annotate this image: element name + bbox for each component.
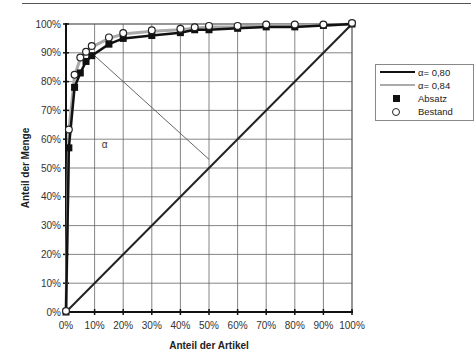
legend-label: Bestand bbox=[418, 105, 453, 118]
x-tick-label: 20% bbox=[113, 320, 133, 331]
y-tick-label: 0% bbox=[47, 307, 62, 318]
alpha-annotation: α bbox=[102, 139, 108, 150]
x-tick-label: 100% bbox=[339, 320, 365, 331]
x-tick-label: 40% bbox=[170, 320, 190, 331]
y-tick-label: 50% bbox=[41, 163, 61, 174]
absatz-marker bbox=[65, 144, 72, 151]
x-tick-label: 50% bbox=[199, 320, 219, 331]
y-tick-label: 90% bbox=[41, 47, 61, 58]
y-tick-label: 70% bbox=[41, 105, 61, 116]
bestand-marker bbox=[349, 20, 356, 27]
bestand-marker bbox=[206, 22, 213, 29]
x-tick-label: 90% bbox=[313, 320, 333, 331]
legend-label: α= 0,80 bbox=[418, 66, 450, 79]
legend-item-bestand: Bestand bbox=[376, 105, 473, 118]
chart-legend: α= 0,80 α= 0,84 Absatz Bestand bbox=[375, 64, 474, 121]
y-tick-label: 100% bbox=[35, 19, 61, 30]
x-tick-label: 70% bbox=[256, 320, 276, 331]
x-tick-label: 0% bbox=[59, 320, 74, 331]
absatz-marker bbox=[71, 84, 78, 91]
x-tick-label: 30% bbox=[142, 320, 162, 331]
bestand-marker bbox=[263, 21, 270, 28]
legend-item-absatz: Absatz bbox=[376, 92, 473, 105]
bestand-marker bbox=[77, 54, 84, 61]
x-tick-label: 80% bbox=[285, 320, 305, 331]
bestand-marker bbox=[106, 34, 113, 41]
grey-line-swatch-icon bbox=[380, 84, 415, 86]
y-tick-label: 10% bbox=[41, 278, 61, 289]
y-tick-label: 60% bbox=[41, 134, 61, 145]
bestand-marker bbox=[88, 43, 95, 50]
bestand-marker bbox=[177, 25, 184, 32]
y-tick-label: 80% bbox=[41, 76, 61, 87]
bestand-marker bbox=[191, 24, 198, 31]
y-axis-title: Anteil der Menge bbox=[20, 127, 31, 208]
legend-item-alpha-084: α= 0,84 bbox=[376, 79, 473, 92]
bestand-marker bbox=[291, 21, 298, 28]
y-tick-label: 40% bbox=[41, 191, 61, 202]
y-tick-label: 20% bbox=[41, 249, 61, 260]
bestand-marker bbox=[320, 21, 327, 28]
y-tick-label: 30% bbox=[41, 220, 61, 231]
bestand-marker bbox=[83, 48, 90, 55]
legend-label: α= 0,84 bbox=[418, 79, 450, 92]
solid-line-swatch-icon bbox=[380, 71, 415, 73]
bestand-marker bbox=[71, 71, 78, 78]
bestand-marker bbox=[120, 30, 127, 37]
x-axis-title: Anteil der Artikel bbox=[169, 340, 249, 351]
filled-square-icon bbox=[393, 95, 400, 102]
absatz-marker bbox=[105, 41, 112, 48]
bestand-marker bbox=[63, 308, 70, 315]
x-tick-label: 60% bbox=[228, 320, 248, 331]
bestand-marker bbox=[65, 126, 72, 133]
bestand-marker bbox=[148, 27, 155, 34]
x-tick-label: 10% bbox=[85, 320, 105, 331]
legend-item-alpha-080: α= 0,80 bbox=[376, 66, 473, 79]
bestand-marker bbox=[234, 22, 241, 29]
open-circle-icon bbox=[392, 108, 400, 116]
legend-label: Absatz bbox=[418, 92, 447, 105]
